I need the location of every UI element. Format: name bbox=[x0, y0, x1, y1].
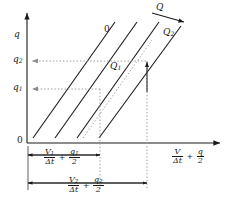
dim2-plus: + bbox=[82, 181, 91, 190]
line-label-q1: Q1 bbox=[110, 62, 121, 71]
q-direction-label: Q bbox=[156, 3, 163, 12]
y-axis-label: q bbox=[14, 30, 20, 39]
y-tick-label-q1: q1 bbox=[13, 83, 23, 92]
origin-label: 0 bbox=[17, 136, 23, 145]
x-axis-frac-1: V Δt bbox=[172, 148, 183, 166]
dim1-frac-2: q1 2 bbox=[69, 148, 80, 166]
axis-lines bbox=[27, 13, 220, 143]
q-direction-arrow bbox=[152, 13, 184, 22]
diagram-svg bbox=[0, 0, 229, 202]
figure-canvas: q 0 q2 q1 0 Q1 Q2 Q V Δt + q 2 V1 Δt + q… bbox=[0, 0, 229, 202]
dimension-2-label: V2 Δt + q2 2 bbox=[68, 176, 104, 194]
dim2-frac-2: q2 2 bbox=[93, 176, 104, 194]
dim2-frac-1: V2 Δt bbox=[68, 176, 79, 194]
x-axis-frac-2: q 2 bbox=[197, 148, 204, 166]
line-label-q2: Q2 bbox=[163, 28, 174, 37]
y-tick-label-q2: q2 bbox=[13, 55, 23, 64]
guide-lines bbox=[32, 61, 147, 189]
x-axis-label: V Δt + q 2 bbox=[172, 148, 204, 166]
line-label-0: 0 bbox=[104, 25, 110, 34]
x-axis-plus: + bbox=[186, 152, 195, 161]
dotted-diagonal bbox=[83, 40, 152, 138]
dimension-1-label: V1 Δt + q1 2 bbox=[44, 148, 80, 166]
dim1-frac-1: V1 Δt bbox=[44, 148, 55, 166]
line-q1 bbox=[55, 22, 137, 138]
line-q2 bbox=[99, 26, 181, 138]
parallel-lines bbox=[33, 22, 181, 138]
line-0 bbox=[33, 22, 115, 138]
dim1-plus: + bbox=[58, 153, 67, 162]
